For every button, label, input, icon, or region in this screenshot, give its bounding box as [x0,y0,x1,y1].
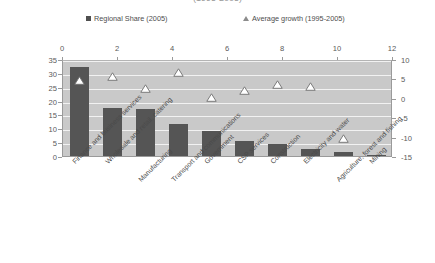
legend-label-regional-share: Regional Share (2005) [94,14,167,23]
top-axis-tick-label: 8 [280,44,284,53]
top-axis-tick-label: 0 [60,44,64,53]
left-axis-tick-label: 30 [49,69,57,78]
top-axis-tick-label: 4 [170,44,174,53]
right-axis-tick-label: -10 [401,133,412,142]
growth-marker-7 [305,82,316,91]
gridline [63,89,391,90]
chart-legend: Regional Share (2005) Average growth (19… [0,14,435,26]
legend-label-average-growth: Average growth (1995-2005) [252,14,345,23]
legend-triangle-icon [243,16,249,21]
growth-marker-4 [206,93,217,102]
right-axis-tick-label: 0 [401,94,405,103]
top-axis: 024681012 [62,44,392,58]
growth-marker-1 [107,72,118,81]
legend-item-average-growth: Average growth (1995-2005) [243,14,345,23]
right-axis-tick-label: 5 [401,75,405,84]
left-axis-tick-label: 20 [49,97,57,106]
chart-title: (1995-2005) [0,0,435,3]
growth-marker-0 [74,76,85,85]
left-axis-tick-label: 35 [49,56,57,65]
right-axis-tick-mark [392,79,396,80]
category-axis-labels: Finance and business servicesWholesale a… [0,158,435,263]
top-axis-tick-label: 6 [225,44,229,53]
right-axis: 1050-5-10-15 [392,56,434,161]
growth-marker-3 [173,68,184,77]
top-axis-tick-label: 2 [115,44,119,53]
left-axis-tick-label: 10 [49,125,57,134]
bar-8 [334,152,353,156]
left-axis-tick-label: 5 [53,139,57,148]
legend-square-icon [86,16,91,21]
growth-marker-8 [338,134,349,143]
chart-container: (1995-2005) Regional Share (2005) Averag… [0,0,435,263]
left-axis-tick-label: 15 [49,111,57,120]
legend-item-regional-share: Regional Share (2005) [86,14,167,23]
top-axis-tick-label: 10 [333,44,341,53]
growth-marker-6 [272,80,283,89]
growth-marker-5 [239,86,250,95]
top-axis-tick-label: 12 [388,44,396,53]
growth-marker-2 [140,84,151,93]
gridline [63,103,391,104]
right-axis-tick-mark [392,138,396,139]
right-axis-tick-mark [392,60,396,61]
left-axis-tick-label: 25 [49,83,57,92]
left-axis: 35302520151050 [34,56,62,161]
right-axis-tick-label: 10 [401,56,409,65]
right-axis-tick-mark [392,99,396,100]
gridline [63,61,391,62]
